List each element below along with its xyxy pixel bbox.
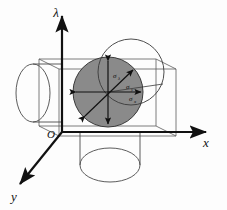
y-axis-label: y (9, 189, 17, 204)
bottom-cylinder (80, 133, 140, 182)
sigma-lambda-symbol: σ (113, 72, 117, 80)
bottom-cylinder-cap (80, 148, 140, 182)
y-axis-line (20, 132, 62, 184)
left-cylinder-cap (16, 64, 50, 122)
lambda-axis-label: λ (52, 5, 59, 20)
x-axis-label: x (202, 135, 209, 150)
box-depth-edge-tr (156, 59, 176, 69)
sigma-ellipsoid-diagram: λ x y O σ λ σ y σ x (0, 0, 227, 210)
sigma-x-symbol: σ (129, 95, 133, 103)
origin-label: O (47, 128, 55, 140)
figure-root: λ x y O σ λ σ y σ x (0, 0, 227, 210)
sigma-y-symbol: σ (126, 83, 130, 91)
